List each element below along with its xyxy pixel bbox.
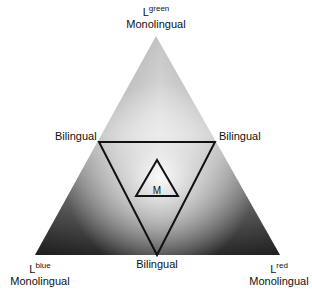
vertex-top-label: Monolingual (126, 18, 185, 30)
vertex-top: Lgreen Monolingual (126, 6, 185, 30)
vertex-bl-sup: blue (35, 261, 50, 270)
vertex-bottom-right: Lred Monolingual (249, 263, 308, 287)
center-label: M (153, 185, 161, 197)
edge-bottom-label: Bilingual (136, 258, 178, 270)
vertex-bottom-left: Lblue Monolingual (10, 263, 69, 287)
vertex-top-sup: green (149, 4, 169, 13)
vertex-bl-label: Monolingual (10, 275, 69, 287)
ternary-diagram (0, 0, 312, 290)
edge-right-label: Bilingual (219, 130, 261, 142)
vertex-br-label: Monolingual (249, 275, 308, 287)
vertex-br-sup: red (276, 261, 288, 270)
edge-left-label: Bilingual (55, 130, 97, 142)
